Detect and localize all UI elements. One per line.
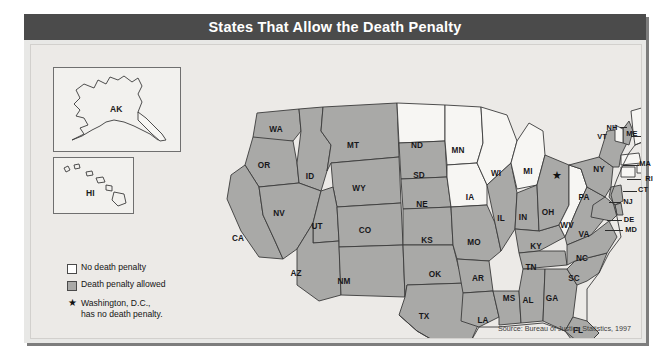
state-label-wv: WV [560, 221, 573, 230]
state-label-ct: CT [638, 185, 648, 194]
state-label-va: VA [579, 230, 590, 239]
alaska-inset: AK [53, 67, 181, 152]
state-shape-in[interactable] [515, 185, 539, 231]
state-label-ms: MS [503, 294, 515, 303]
state-label-tn: TN [525, 263, 536, 272]
title-bar: States That Allow the Death Penalty [24, 14, 646, 40]
legend-label-dc-line1: Washington, D.C., [81, 298, 150, 308]
state-shape-wy[interactable] [331, 157, 401, 207]
state-label-ky: KY [530, 242, 542, 251]
state-label-wa: WA [269, 125, 282, 134]
state-label-ri: RI [645, 174, 653, 183]
leader-line-nj [609, 202, 621, 203]
state-label-ks: KS [421, 236, 433, 245]
legend-label-no-penalty: No death penalty [81, 262, 146, 272]
state-label-nv: NV [273, 209, 285, 218]
infographic-panel: States That Allow the Death Penalty AK H… [24, 14, 646, 343]
state-label-in: IN [519, 213, 527, 222]
state-label-ut: UT [311, 222, 322, 231]
state-shape-me[interactable] [631, 107, 641, 145]
state-label-ca: CA [232, 234, 244, 243]
state-label-nj: NJ [623, 197, 633, 206]
source-note: Source: Bureau of Justice Statistics, 19… [498, 324, 631, 333]
state-label-wi: WI [491, 169, 501, 178]
state-shape-mn[interactable] [445, 105, 483, 165]
map-infographic: States That Allow the Death Penalty AK H… [0, 0, 669, 362]
leader-line-ma [623, 165, 639, 166]
state-label-nd: ND [411, 141, 423, 150]
state-label-nc: NC [576, 254, 588, 263]
leader-line-ri [627, 179, 641, 180]
state-label-tx: TX [419, 312, 430, 321]
state-label-id: ID [306, 172, 314, 181]
state-label-mt: MT [347, 141, 359, 150]
state-label-co: CO [359, 226, 371, 235]
state-label-ia: IA [466, 193, 474, 202]
leader-line-md [605, 230, 623, 231]
state-label-il: IL [497, 214, 504, 223]
state-shape-ct[interactable] [621, 167, 635, 177]
legend-swatch-no-penalty [67, 264, 77, 274]
legend-swatch-allowed [67, 281, 77, 291]
state-label-vt: VT [597, 132, 607, 141]
state-label-ny: NY [593, 165, 605, 174]
state-label-la: LA [477, 316, 488, 325]
inset-label-hi: HI [86, 188, 95, 198]
state-label-mi: MI [523, 167, 532, 176]
state-label-ga: GA [546, 294, 558, 303]
state-shape-nm[interactable] [339, 245, 405, 297]
inset-label-ak: AK [110, 104, 122, 114]
state-label-ne: NE [416, 200, 428, 209]
state-label-nm: NM [338, 277, 351, 286]
state-label-sd: SD [413, 171, 425, 180]
leader-line-ct [623, 191, 637, 192]
state-label-ok: OK [429, 270, 441, 279]
state-label-mn: MN [452, 146, 465, 155]
state-label-sc: SC [568, 274, 580, 283]
state-label-oh: OH [542, 208, 554, 217]
dc-star-marker: ★ [552, 170, 562, 181]
state-label-or: OR [258, 161, 270, 170]
leader-line-de [607, 220, 622, 221]
state-label-de: DE [624, 215, 634, 224]
state-label-wy: WY [352, 184, 365, 193]
leader-line-vt [631, 136, 641, 137]
legend-label-dc-line2: has no death penalty. [81, 309, 163, 319]
state-label-mo: MO [467, 238, 480, 247]
state-label-nh: NH [607, 123, 618, 132]
state-label-ma: MA [639, 159, 651, 168]
legend-star-icon: ★ [68, 297, 77, 308]
legend-label-allowed: Death penalty allowed [81, 279, 166, 289]
state-shape-nd[interactable] [397, 103, 445, 143]
hawaii-inset: HI [53, 157, 134, 214]
hawaii-shape [54, 158, 133, 213]
state-label-al: AL [522, 296, 533, 305]
state-label-pa: PA [579, 193, 590, 202]
legend: No death penalty Death penalty allowed ★… [67, 263, 233, 331]
map-canvas: AK HI WAORCAIDNVMTWYUTAZCONMNDSDNEKSOKTX… [30, 44, 642, 339]
state-label-md: MD [625, 225, 637, 234]
page-title: States That Allow the Death Penalty [24, 14, 646, 40]
state-label-ar: AR [472, 274, 484, 283]
state-label-az: AZ [290, 269, 301, 278]
leader-line-nh [620, 127, 627, 128]
